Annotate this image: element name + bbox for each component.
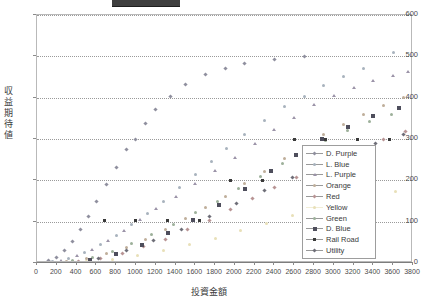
x-axis-line: [36, 262, 412, 263]
data-point: [78, 228, 82, 232]
data-point: [138, 218, 142, 221]
legend-item-d-blue[interactable]: D. Blue: [303, 224, 375, 235]
data-point: [179, 227, 183, 231]
data-point: [214, 237, 217, 240]
legend-item-orange[interactable]: Orange: [303, 180, 375, 191]
x-tick-mark-2400: [273, 262, 274, 265]
legend-marker-icon: [306, 170, 323, 179]
data-point: [283, 157, 286, 160]
legend-item-l-purple[interactable]: L. Purple: [303, 170, 375, 181]
data-point: [281, 162, 284, 165]
data-point: [174, 195, 178, 198]
data-point: [99, 243, 102, 246]
y-tick-mark-300: [33, 138, 36, 139]
data-point: [75, 254, 79, 257]
data-point: [290, 175, 294, 179]
data-point: [70, 239, 74, 243]
data-point: [243, 187, 247, 191]
data-point: [265, 222, 268, 225]
data-point: [146, 212, 149, 215]
data-point: [251, 196, 255, 200]
data-point: [120, 251, 124, 255]
legend-item-rail-road[interactable]: Rail Road: [303, 234, 375, 245]
data-point: [188, 243, 191, 246]
data-point: [114, 165, 118, 169]
y-tick-mark-600: [33, 14, 36, 15]
data-point: [203, 73, 207, 77]
x-tick-mark-2200: [254, 262, 255, 265]
legend-item-label: L. Purple: [326, 170, 356, 179]
legend-item-l-blue[interactable]: L. Blue: [303, 159, 375, 170]
data-point: [381, 137, 385, 141]
data-point: [154, 207, 158, 210]
data-point: [178, 186, 181, 189]
data-point: [229, 207, 233, 211]
data-point: [67, 257, 70, 260]
legend-marker-icon: [306, 181, 323, 190]
data-point: [207, 215, 211, 219]
x-axis-title: 投資金額: [0, 285, 418, 298]
data-point: [368, 120, 371, 123]
data-point: [164, 237, 168, 241]
legend-marker-icon: [306, 246, 323, 255]
x-tick-mark-1600: [194, 262, 195, 265]
data-point: [191, 218, 195, 222]
gridline-y-400: [37, 98, 411, 99]
y-tick-mark-500: [33, 55, 36, 56]
data-point: [154, 107, 158, 111]
data-point: [322, 133, 325, 136]
y-tick-mark-100: [33, 221, 36, 222]
legend-item-d-purple[interactable]: D. Purple: [303, 148, 375, 159]
x-tick-mark-600: [95, 262, 96, 265]
legend-item-label: Utility: [326, 246, 344, 255]
data-point: [229, 179, 232, 182]
data-point: [293, 138, 296, 141]
data-point: [152, 239, 156, 243]
legend-item-green[interactable]: Green: [303, 213, 375, 224]
legend[interactable]: D. PurpleL. BlueL. PurpleOrangeRedYellow…: [302, 145, 376, 259]
legend-item-utility[interactable]: Utility: [303, 245, 375, 256]
data-point: [194, 173, 197, 176]
x-tick-mark-200: [56, 262, 57, 265]
y-tick-mark-400: [33, 97, 36, 98]
data-point: [243, 62, 247, 66]
data-point: [346, 125, 350, 129]
legend-item-label: Green: [326, 214, 347, 223]
gridline-y-300: [37, 139, 411, 140]
data-point: [269, 169, 273, 173]
window-title-bar-fragment: [112, 0, 180, 7]
data-point: [283, 105, 286, 108]
x-tick-mark-2000: [234, 262, 235, 265]
data-point: [63, 248, 67, 252]
data-point: [111, 258, 114, 261]
data-point: [217, 203, 221, 207]
x-tick-mark-3000: [333, 262, 334, 265]
y-tick-label-500: 500: [388, 51, 418, 59]
data-point: [104, 182, 108, 186]
data-point: [150, 233, 153, 236]
data-point: [193, 182, 197, 185]
gridline-y-600: [37, 15, 411, 16]
x-tick-mark-1400: [175, 262, 176, 265]
data-point: [224, 195, 227, 198]
y-tick-label-100: 100: [388, 217, 418, 225]
data-point: [320, 137, 324, 141]
legend-marker-icon: [306, 203, 323, 212]
data-point: [124, 248, 128, 252]
legend-item-red[interactable]: Red: [303, 191, 375, 202]
data-point: [382, 104, 385, 107]
legend-item-yellow[interactable]: Yellow: [303, 202, 375, 213]
legend-item-label: Rail Road: [326, 235, 359, 244]
data-point: [406, 70, 410, 73]
data-point: [342, 75, 345, 78]
data-point: [302, 54, 306, 58]
x-tick-mark-1200: [155, 262, 156, 265]
legend-item-label: Yellow: [326, 203, 347, 212]
data-point: [356, 138, 359, 141]
x-tick-mark-1000: [135, 262, 136, 265]
data-point: [272, 128, 276, 131]
x-tick-mark-3800: [412, 262, 413, 265]
data-point: [210, 160, 213, 163]
data-point: [140, 243, 144, 247]
x-tick-mark-0: [36, 262, 37, 265]
